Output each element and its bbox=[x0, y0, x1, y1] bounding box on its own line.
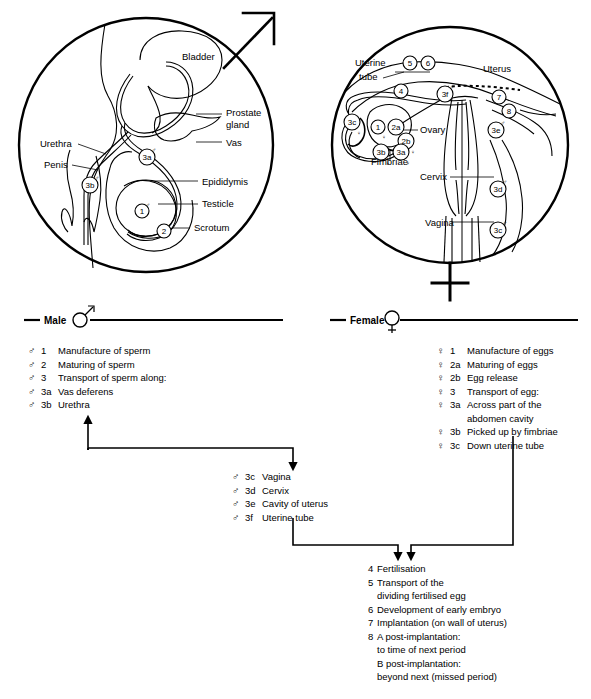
female-marker-8-number: 8 bbox=[507, 107, 512, 116]
male-list-item-item: ♂1Manufacture of sperm bbox=[28, 345, 150, 356]
male-marker-1: 1♂ bbox=[135, 202, 150, 218]
female-list-item-item-text: Egg release bbox=[467, 372, 518, 383]
male-label-epididymis: Epididymis bbox=[202, 176, 248, 187]
middle-list-item-item-symbol: ♂ bbox=[232, 512, 240, 523]
middle-list-item-item: ♂3dCervix bbox=[232, 485, 289, 496]
mars-header-arrow-shaft bbox=[85, 307, 93, 315]
female-label-fimbriae: Fimbriae bbox=[371, 156, 408, 167]
male-list-item-item: ♂3Transport of sperm along: bbox=[28, 372, 166, 383]
venus-cross-icon bbox=[432, 263, 468, 300]
female-list-item-item-number: 3c bbox=[450, 440, 460, 451]
female-list-item-item-text: Across part of the bbox=[467, 399, 541, 410]
male-header-label: Male bbox=[44, 315, 67, 326]
female-list-item-item-symbol: ♀ bbox=[437, 426, 445, 437]
male-list-item-item-number: 3 bbox=[41, 372, 46, 383]
female-marker-3c-left-gender-symbol: ♀ bbox=[357, 130, 362, 136]
female-list-item-item: ♀3Transport of egg: bbox=[437, 386, 539, 397]
male-label-vas: Vas bbox=[226, 137, 242, 148]
bottom-list-item-item-number: 6 bbox=[368, 604, 373, 615]
male-label-scrotum: Scrotum bbox=[194, 222, 229, 233]
female-marker-1: 1♀ bbox=[371, 120, 386, 140]
leader-uterine-tube bbox=[383, 72, 404, 78]
bottom-list-item-item-number: 7 bbox=[368, 617, 373, 628]
reproduction-diagram: 3a♂3b♂1♂2♂ 5643f♂783c♀1♀2a♀2b♀3e♂3b♀3a♀3… bbox=[0, 0, 591, 699]
bottom-list-item-item-text: beyond next (missed period) bbox=[377, 671, 497, 682]
middle-list-item-item-text: Vagina bbox=[262, 471, 292, 482]
female-marker-4-number: 4 bbox=[399, 87, 404, 96]
middle-list-item-item: ♂3fUterine tube bbox=[232, 512, 314, 523]
leader-urethra bbox=[78, 144, 106, 154]
female-marker-group: 5643f♂783c♀1♀2a♀2b♀3e♂3b♀3a♀3d♂3c♂ bbox=[344, 56, 516, 238]
male-label-penis: Penis bbox=[44, 159, 68, 170]
female-marker-3f-gender-symbol: ♂ bbox=[450, 84, 455, 90]
male-list-item-item-symbol: ♂ bbox=[28, 359, 36, 370]
male-list-item-item: ♂2Maturing of sperm bbox=[28, 359, 135, 370]
male-marker-2-number: 2 bbox=[162, 227, 167, 236]
female-annotation-group: UterinetubeUterusOvaryFimbriaeCervixVagi… bbox=[355, 57, 511, 228]
male-marker-1-number: 1 bbox=[140, 207, 145, 216]
male-marker-2: 2♂ bbox=[157, 222, 172, 238]
middle-list-item-item: ♂3cVagina bbox=[232, 471, 292, 482]
female-marker-3f-number: 3f bbox=[442, 90, 449, 99]
bottom-list-item-item: dividing fertilised egg bbox=[377, 590, 466, 601]
male-list-item-item-symbol: ♂ bbox=[28, 386, 36, 397]
male-section-header: Male bbox=[24, 306, 283, 327]
male-label-urethra: Urethra bbox=[40, 138, 72, 149]
bottom-list-item-item: 8A post-implantation: bbox=[368, 631, 460, 642]
female-list-item-item: ♀3bPicked up by fimbriae bbox=[437, 426, 558, 437]
female-marker-2b-gender-symbol: ♀ bbox=[411, 149, 416, 155]
female-marker-7-number: 7 bbox=[497, 93, 502, 102]
bottom-list-group: 4Fertilisation5Transport of thedividing … bbox=[368, 563, 507, 682]
female-label-uterine-tube-2: tube bbox=[359, 71, 378, 82]
female-list-item-item-symbol: ♀ bbox=[437, 440, 445, 451]
male-marker-2-gender-symbol: ♂ bbox=[168, 222, 173, 228]
bottom-list-item-item-text: Development of early embryo bbox=[377, 604, 501, 615]
bottom-list-item-item: 7Implantation (on wall of uterus) bbox=[368, 617, 507, 628]
female-marker-5-number: 5 bbox=[408, 59, 413, 68]
male-list-item-item-symbol: ♂ bbox=[28, 399, 36, 410]
bottom-list-item-item: beyond next (missed period) bbox=[377, 671, 497, 682]
bottom-list-item-item-text: Transport of the bbox=[377, 577, 444, 588]
male-list-group: ♂1Manufacture of sperm♂2Maturing of sper… bbox=[28, 345, 166, 410]
female-marker-3d: 3d♂ bbox=[490, 179, 507, 197]
female-list-item-item-symbol: ♀ bbox=[437, 359, 445, 370]
female-list-item-item: abdomen cavity bbox=[467, 413, 534, 424]
female-marker-4: 4 bbox=[394, 84, 408, 98]
female-marker-5: 5 bbox=[403, 56, 417, 70]
female-label-vagina: Vagina bbox=[425, 217, 455, 228]
male-marker-1-gender-symbol: ♂ bbox=[146, 202, 151, 208]
bottom-list-item-item-text: Fertilisation bbox=[377, 563, 426, 574]
connector-male-to-middle bbox=[88, 418, 293, 468]
male-list-item-item: ♂3bUrethra bbox=[28, 399, 90, 410]
male-marker-3a-number: 3a bbox=[143, 153, 152, 162]
female-marker-3d-number: 3d bbox=[494, 185, 503, 194]
female-list-item-item-symbol: ♀ bbox=[437, 345, 445, 356]
male-list-item-item-text: Vas deferens bbox=[58, 386, 114, 397]
female-marker-3e: 3e♂ bbox=[488, 120, 505, 138]
bottom-list-item-item-text: Implantation (on wall of uterus) bbox=[377, 617, 507, 628]
middle-list-item-item-symbol: ♂ bbox=[232, 485, 240, 496]
male-list-item-item-text: Manufacture of sperm bbox=[58, 345, 150, 356]
male-marker-3b: 3b♂ bbox=[82, 175, 99, 193]
male-list-item-item: ♂3aVas deferens bbox=[28, 386, 114, 397]
middle-list-item-item-text: Uterine tube bbox=[262, 512, 314, 523]
female-list-item-item-number: 2b bbox=[450, 372, 461, 383]
female-marker-6-number: 6 bbox=[426, 59, 431, 68]
connector-female-to-bottom bbox=[411, 436, 513, 558]
female-list-item-item-number: 3 bbox=[450, 386, 455, 397]
bottom-list-item-item: 6Development of early embryo bbox=[368, 604, 501, 615]
middle-list-group: ♂3cVagina♂3dCervix♂3eCavity of uterus♂3f… bbox=[232, 471, 328, 523]
male-list-item-item-number: 1 bbox=[41, 345, 46, 356]
female-marker-3e-number: 3e bbox=[492, 126, 501, 135]
bottom-list-item-item-text: A post-implantation: bbox=[377, 631, 460, 642]
female-list-item-item: ♀1Manufacture of eggs bbox=[437, 345, 554, 356]
bottom-list-item-item-text: to time of next period bbox=[377, 644, 466, 655]
middle-list-item-item-text: Cavity of uterus bbox=[262, 498, 328, 509]
male-list-item-item-text: Urethra bbox=[58, 399, 90, 410]
female-label-ovary: Ovary bbox=[420, 124, 446, 135]
male-label-testicle: Testicle bbox=[202, 198, 234, 209]
bottom-list-item-item: B post-implantation: bbox=[377, 658, 461, 669]
female-list-item-item: ♀3aAcross part of the bbox=[437, 399, 541, 410]
male-list-item-item-symbol: ♂ bbox=[28, 372, 36, 383]
bottom-list-item-item-text: dividing fertilised egg bbox=[377, 590, 466, 601]
